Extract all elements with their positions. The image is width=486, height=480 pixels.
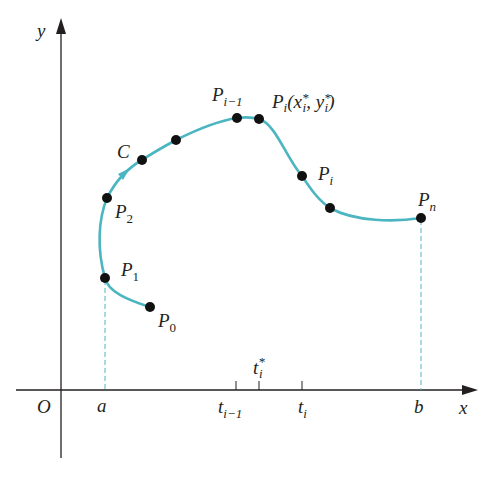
- diagram-svg: y x O a ti−1 t* i ti b C P0 P1 P2 Pi−1 P…: [0, 0, 486, 480]
- point-p-i: [297, 171, 307, 181]
- curve-c: [100, 117, 421, 307]
- point-p0: [145, 302, 155, 312]
- point-pn: [416, 213, 426, 223]
- point-intermediate-2: [325, 203, 335, 213]
- point-p-i-star: [254, 114, 264, 124]
- label-p1: P1: [120, 259, 139, 284]
- label-p0: P0: [157, 310, 176, 335]
- label-p2: P2: [114, 201, 133, 226]
- point-p-i-minus-1: [232, 113, 242, 123]
- tick-label-t-i: ti: [298, 396, 307, 421]
- y-axis-arrow-icon: [56, 18, 66, 34]
- tick-label-a: a: [97, 395, 107, 416]
- parametric-curve-diagram: y x O a ti−1 t* i ti b C P0 P1 P2 Pi−1 P…: [0, 0, 486, 480]
- tick-label-t-i-star-sub: i: [259, 366, 263, 381]
- label-p-n: Pn: [417, 189, 436, 214]
- tick-label-t-i-minus-1: ti−1: [218, 396, 242, 421]
- label-p-i-star: Pi(x*i, y*i): [271, 90, 335, 115]
- x-axis-arrow-icon: [462, 385, 478, 395]
- label-p-i: Pi: [317, 163, 334, 188]
- origin-label: O: [37, 396, 51, 417]
- point-p2: [102, 193, 112, 203]
- point-intermediate: [171, 135, 181, 145]
- y-axis-label: y: [35, 20, 46, 41]
- curve-points: [100, 113, 426, 312]
- axes: [16, 18, 478, 458]
- curve-label-c: C: [117, 141, 130, 162]
- x-axis-label: x: [458, 397, 468, 418]
- label-p-i-minus-1: Pi−1: [211, 84, 243, 109]
- point-p1: [100, 273, 110, 283]
- point-c: [137, 155, 147, 165]
- tick-label-b: b: [414, 396, 424, 417]
